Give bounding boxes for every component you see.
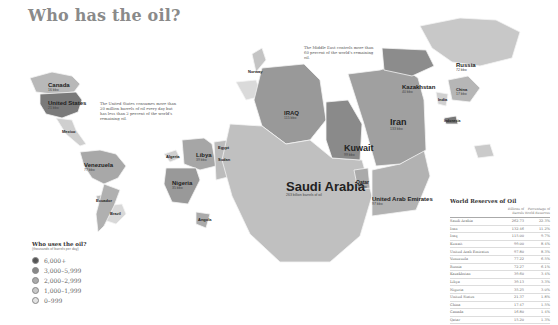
legend-unit: (thousands of barrels per day) — [32, 247, 122, 251]
label-kazakhstan: Kazakhstan40 bbo — [402, 84, 435, 95]
legend-item: 3,000–5,999 — [32, 265, 122, 275]
table-row: Russia72.276.1% — [450, 264, 550, 272]
table-row: Libya39.133.3% — [450, 279, 550, 287]
label-libya: Libya39 bbo — [196, 152, 212, 163]
legend-swatch-icon — [32, 277, 39, 284]
table-row: Iraq115.009.7% — [450, 233, 550, 241]
legend-swatch-icon — [32, 257, 39, 264]
legend-swatch-icon — [32, 287, 39, 294]
label-china: China17 bbo — [456, 88, 467, 97]
label-angola: Angola — [198, 218, 212, 222]
legend: Who uses the oil? (thousands of barrels … — [32, 241, 122, 305]
table-row: Saudi Arabia262.7322.3% — [450, 218, 550, 226]
label-mexico: Mexico — [62, 130, 76, 134]
table-row: Kuwait99.008.4% — [450, 241, 550, 249]
note-united-states: The United States consumes more than 20 … — [100, 102, 180, 122]
table-row: Iran132.4611.2% — [450, 226, 550, 234]
label-kuwait: Kuwait99 bbo — [344, 144, 374, 158]
table-row: Kazakhstan39.603.4% — [450, 271, 550, 279]
region-australia — [474, 144, 494, 158]
table-row: Venezuela77.226.5% — [450, 256, 550, 264]
note-middle-east: The Middle East controls more than 60 pe… — [304, 46, 374, 61]
reserves-table: World Reserves of Oil Billions of Barrel… — [450, 198, 550, 324]
table-row: United Arab Emirates97.808.3% — [450, 248, 550, 256]
legend-item: 1,000–1,999 — [32, 285, 122, 295]
legend-item: 2,000–2,999 — [32, 275, 122, 285]
label-qatar: Qatar15 bbo — [356, 180, 369, 190]
label-indonesia: Indonesia — [444, 120, 460, 124]
label-usa: United States21 bbo — [48, 100, 86, 111]
label-ecuador: Ecuador — [96, 199, 112, 203]
label-iraq: IRAQ115 bbo — [284, 110, 299, 121]
label-russia: Russia72 bbo — [456, 62, 476, 73]
legend-item: 6,000+ — [32, 255, 122, 265]
label-egypt: Egypt — [218, 146, 229, 150]
label-iran: Iran133 bbo — [390, 118, 407, 132]
table-title: World Reserves of Oil — [450, 198, 550, 204]
table-row: United States21.371.8% — [450, 294, 550, 302]
label-uae: United Arab Emirates97 bbo — [372, 196, 433, 207]
region-russia — [420, 18, 520, 66]
table-row: Qatar15.201.3% — [450, 317, 550, 325]
label-sudan: Sudan — [218, 158, 230, 162]
table-row: Nigeria35.253.0% — [450, 286, 550, 294]
label-algeria: Algeria — [166, 155, 180, 159]
label-india: India — [438, 98, 447, 102]
table-header: Billions of Barrels Percentage of World … — [450, 207, 550, 218]
label-norway: Norway — [248, 70, 262, 74]
label-brazil: Brazil — [110, 212, 121, 216]
table-row: China17.471.5% — [450, 302, 550, 310]
label-nigeria: Nigeria35 bbo — [172, 180, 192, 191]
legend-item: 0–999 — [32, 295, 122, 305]
label-saudi-arabia: Saudi Arabia263 billion barrels of oil — [286, 180, 365, 198]
label-venezuela: Venezuela77 bbo — [84, 162, 113, 173]
table-row: Canada16.801.4% — [450, 309, 550, 317]
legend-swatch-icon — [32, 297, 39, 304]
label-canada: Canada16 bbo — [48, 82, 70, 93]
legend-swatch-icon — [32, 267, 39, 274]
